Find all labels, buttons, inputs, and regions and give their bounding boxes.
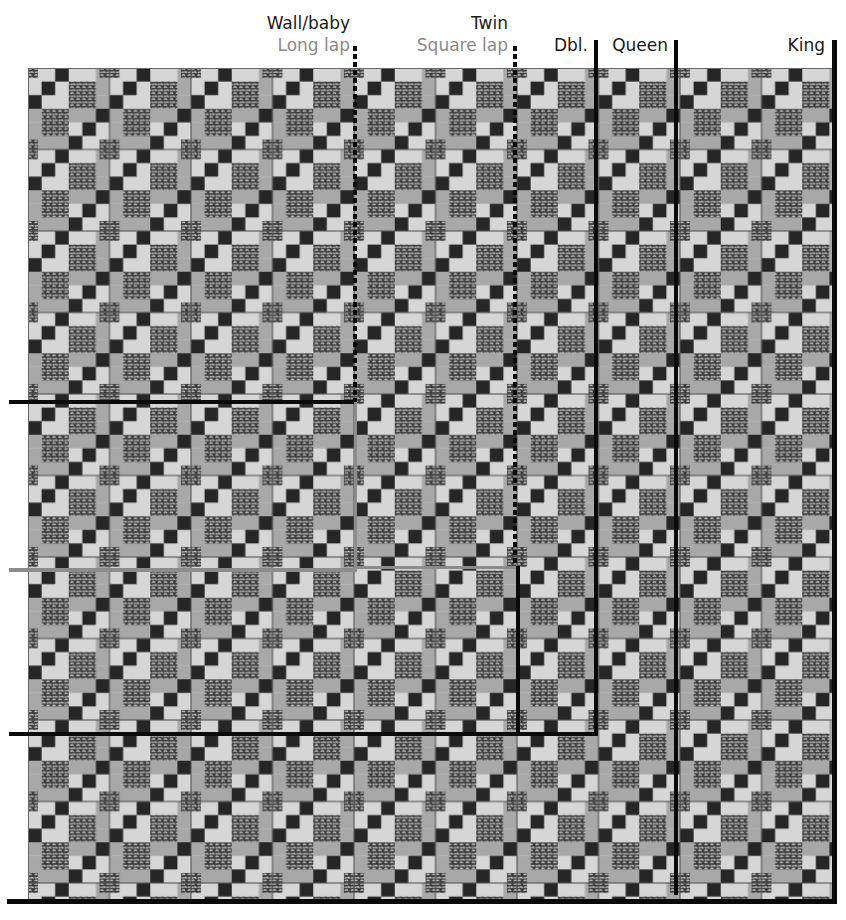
label-king: King (788, 35, 825, 55)
label-square-lap: Square lap (417, 35, 508, 55)
twin-double-horizontal-line (9, 732, 598, 736)
twin-vertical-solid-line (516, 566, 520, 734)
label-long-lap: Long lap (278, 35, 350, 55)
quilt-diagram (28, 68, 836, 900)
label-queen: Queen (612, 35, 668, 55)
label-twin: Twin (471, 13, 508, 33)
square-lap-horizontal-line (357, 566, 517, 569)
double-vertical-line (594, 40, 598, 735)
king-vertical-line (832, 40, 837, 902)
long-lap-vertical-line (354, 402, 357, 572)
label-double: Dbl. (554, 35, 588, 55)
wall-baby-horizontal-line (9, 400, 357, 404)
twin-vertical-line (513, 46, 517, 566)
wall-baby-vertical-line (353, 46, 357, 402)
king-horizontal-line (7, 899, 837, 904)
queen-vertical-line (674, 40, 678, 895)
label-wall-baby: Wall/baby (267, 13, 350, 33)
long-lap-horizontal-line (9, 568, 357, 572)
